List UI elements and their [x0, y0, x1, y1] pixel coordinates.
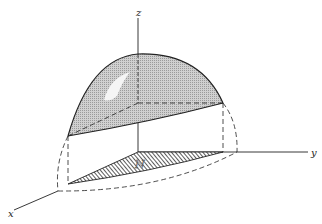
x-axis-label: x	[8, 208, 14, 219]
z-axis-label: z	[135, 7, 142, 18]
surface-cap	[68, 54, 223, 136]
x-axis	[14, 191, 58, 210]
y-axis-label: y	[310, 147, 317, 158]
region-n-label: N	[134, 158, 145, 171]
right-side-arc	[223, 103, 237, 152]
surface-diagram: z y x N	[0, 0, 322, 224]
left-side-arc	[57, 136, 68, 191]
